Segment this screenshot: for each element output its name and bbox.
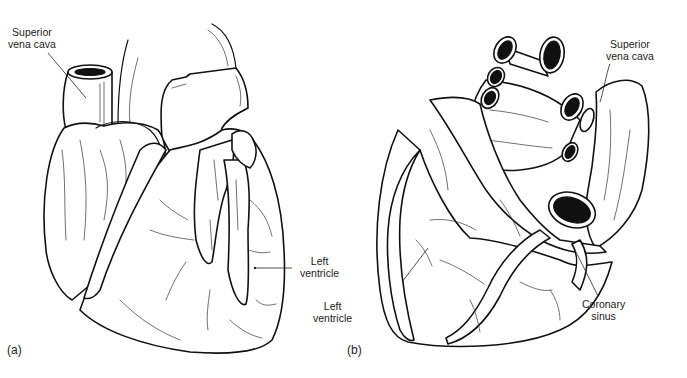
label-line: Left bbox=[313, 300, 352, 312]
label-line: Coronary bbox=[582, 298, 625, 310]
panel-letter-a: (a) bbox=[7, 343, 22, 357]
panel-letter-b: (b) bbox=[347, 343, 362, 357]
label-line: Left bbox=[300, 255, 339, 267]
label-line: Superior bbox=[8, 26, 56, 38]
label-superior-vena-cava-a: Superior vena cava bbox=[8, 26, 56, 50]
heart-anatomy-figure: Superior vena cava Left ventricle (a) Su… bbox=[0, 0, 687, 378]
label-line: ventricle bbox=[300, 267, 339, 279]
label-left-ventricle-b: Left ventricle bbox=[313, 300, 352, 324]
label-line: vena cava bbox=[8, 38, 56, 50]
label-line: ventricle bbox=[313, 312, 352, 324]
label-line: sinus bbox=[582, 310, 625, 322]
label-coronary-sinus-b: Coronary sinus bbox=[582, 298, 625, 322]
label-line: vena cava bbox=[606, 50, 654, 62]
label-superior-vena-cava-b: Superior vena cava bbox=[606, 38, 654, 62]
label-left-ventricle-a: Left ventricle bbox=[300, 255, 339, 279]
label-line: Superior bbox=[606, 38, 654, 50]
heart-anterior-view bbox=[44, 24, 292, 353]
